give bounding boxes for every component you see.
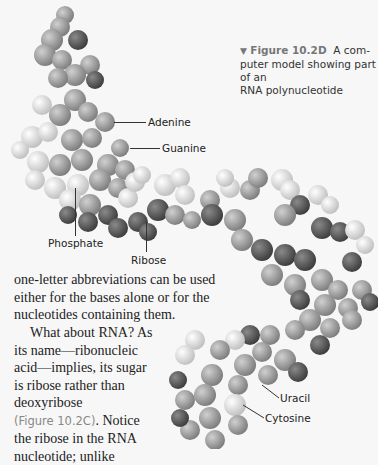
- adenine-leader: [114, 122, 146, 123]
- label-uracil: Uracil: [280, 392, 310, 404]
- caption-line-3: RNA polynucleotide: [240, 84, 343, 96]
- body-line: nucleotide; unlike: [14, 448, 152, 465]
- phosphate-leader: [75, 188, 76, 236]
- caption-line-1: A com-: [333, 44, 370, 56]
- ribose-leader: [146, 222, 147, 252]
- body-paragraph-2: What about RNA? As its name—ribonucleic …: [14, 324, 152, 465]
- body-line-ref: (Figure 10.2C). Notice: [14, 412, 152, 431]
- label-ribose: Ribose: [131, 254, 166, 266]
- body-line: What about RNA? As: [14, 324, 152, 342]
- label-guanine: Guanine: [162, 142, 206, 154]
- guanine-leader: [130, 148, 160, 149]
- figure-number: Figure 10.2D: [250, 44, 326, 56]
- body-paragraph-1: one-letter abbreviations can be used eit…: [14, 271, 215, 324]
- body-line: deoxyribose: [14, 394, 152, 412]
- body-line: its name—ribonucleic: [14, 342, 152, 360]
- label-adenine: Adenine: [148, 116, 191, 128]
- figure-reference-link[interactable]: (Figure 10.2C): [14, 414, 95, 428]
- body-line: is ribose rather than: [14, 377, 152, 395]
- label-cytosine: Cytosine: [265, 412, 311, 424]
- body-line: one-letter abbreviations can be used: [14, 271, 215, 289]
- body-line: acid—implies, its sugar: [14, 359, 152, 377]
- caption-line-2: puter model showing part of an: [240, 58, 376, 83]
- body-line: either for the bases alone or for the: [14, 289, 215, 307]
- body-line: nucleotides containing them.: [14, 306, 215, 324]
- body-line: the ribose in the RNA: [14, 430, 152, 448]
- figure-caption: ▼ Figure 10.2D A com- puter model showin…: [240, 44, 378, 97]
- label-phosphate: Phosphate: [48, 237, 103, 249]
- figure-marker-icon: ▼: [240, 46, 247, 56]
